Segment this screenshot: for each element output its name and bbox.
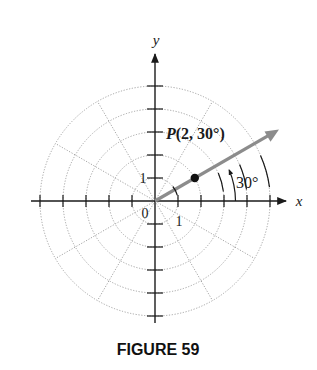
y-unit-label: 1: [140, 171, 147, 186]
x-axis-label: x: [295, 193, 303, 209]
radial-120: [98, 101, 156, 201]
polar-diagram: y x 0 1 1 P(2, 30°) 30° FIGURE 59: [0, 0, 317, 370]
angle-label: 30°: [236, 174, 258, 191]
ray-line: [155, 135, 270, 201]
angle-arc-30deg: [229, 170, 235, 201]
point-p: [191, 174, 199, 182]
x-unit-label: 1: [176, 214, 183, 229]
figure-caption: FIGURE 59: [117, 341, 200, 358]
radial-210: [55, 201, 155, 259]
radial-330: [155, 201, 255, 259]
point-p-coords: (2, 30°): [176, 125, 225, 143]
origin-label: 0: [142, 206, 149, 221]
point-p-label: P(2, 30°): [165, 125, 225, 143]
y-axis-label: y: [151, 32, 160, 48]
radial-300: [155, 201, 213, 301]
